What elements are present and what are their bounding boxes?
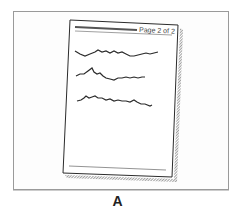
page bbox=[63, 20, 178, 177]
figure-caption: A bbox=[0, 193, 235, 209]
tilted-page-illustration: Page 2 of 2 bbox=[0, 0, 235, 215]
